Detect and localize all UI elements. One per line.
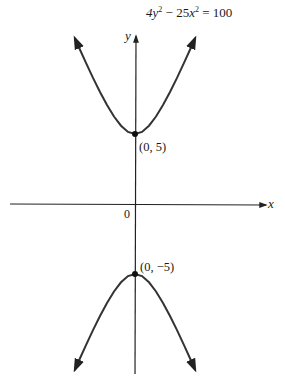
origin-label: 0 [124, 207, 130, 222]
x-axis-label: x [268, 196, 274, 212]
x-axis [10, 204, 266, 205]
vertex-point-upper [132, 131, 138, 137]
vertex-point-lower [132, 271, 138, 277]
equation-label: 4y2 − 25x2 = 100 [146, 5, 232, 21]
vertex-label-upper: (0, 5) [139, 140, 166, 155]
y-axis-label: y [125, 28, 131, 44]
hyperbola-plot [0, 0, 285, 386]
upper-branch-curve [75, 38, 195, 134]
vertex-label-lower: (0, −5) [140, 260, 174, 275]
y-axis [135, 36, 136, 374]
